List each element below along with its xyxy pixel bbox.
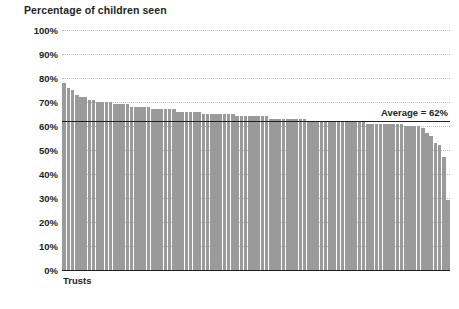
bar xyxy=(185,112,189,270)
bar xyxy=(142,107,146,270)
bar xyxy=(92,100,96,270)
average-label: Average = 62% xyxy=(250,107,448,118)
bar xyxy=(299,119,303,270)
bar xyxy=(109,102,113,270)
y-axis-tick-labels: 100%90%80%70%60%50%40%30%20%10%0% xyxy=(18,30,58,270)
bar xyxy=(383,124,387,270)
bar xyxy=(273,119,277,270)
chart-container: Percentage of children seen 100%90%80%70… xyxy=(0,0,459,309)
bar xyxy=(366,124,370,270)
bar xyxy=(79,97,83,270)
bar xyxy=(210,114,214,270)
y-axis-tick: 10% xyxy=(24,241,58,252)
bar xyxy=(235,116,239,270)
bar xyxy=(202,114,206,270)
bar xyxy=(303,119,307,270)
bar xyxy=(113,104,117,270)
bar xyxy=(193,112,197,270)
bar xyxy=(379,124,383,270)
bar xyxy=(370,124,374,270)
bar xyxy=(130,107,134,270)
bar xyxy=(214,114,218,270)
bar xyxy=(231,114,235,270)
bar xyxy=(180,112,184,270)
bar xyxy=(442,157,446,270)
bar xyxy=(328,121,332,270)
bar xyxy=(117,104,121,270)
y-axis-tick: 50% xyxy=(24,145,58,156)
bar xyxy=(429,136,433,270)
bar xyxy=(417,126,421,270)
y-axis-tick: 80% xyxy=(24,73,58,84)
bar xyxy=(345,121,349,270)
bar xyxy=(105,102,109,270)
y-axis-tick: 0% xyxy=(24,265,58,276)
bar xyxy=(434,143,438,270)
bar xyxy=(159,109,163,270)
bar xyxy=(404,126,408,270)
bar xyxy=(277,119,281,270)
bar xyxy=(362,121,366,270)
bar xyxy=(218,114,222,270)
bar xyxy=(100,102,104,270)
bar xyxy=(438,145,442,270)
average-line xyxy=(62,121,450,122)
y-axis-tick: 30% xyxy=(24,193,58,204)
plot-area xyxy=(62,30,450,270)
bar xyxy=(168,109,172,270)
y-axis-tick: 40% xyxy=(24,169,58,180)
bar xyxy=(282,119,286,270)
y-axis-tick: 20% xyxy=(24,217,58,228)
y-axis-tick: 60% xyxy=(24,121,58,132)
bar xyxy=(446,200,450,270)
bar xyxy=(307,121,311,270)
bar xyxy=(252,116,256,270)
bar xyxy=(337,121,341,270)
bar xyxy=(408,126,412,270)
bar xyxy=(227,114,231,270)
bar xyxy=(67,88,71,270)
bar xyxy=(332,121,336,270)
bar xyxy=(147,107,151,270)
bar xyxy=(400,124,404,270)
y-axis-tick: 100% xyxy=(24,25,58,36)
bar xyxy=(387,124,391,270)
bar xyxy=(248,116,252,270)
bar xyxy=(151,109,155,270)
bar xyxy=(164,109,168,270)
bar xyxy=(349,121,353,270)
bar-series xyxy=(62,30,450,270)
x-axis-line xyxy=(62,270,450,271)
bar xyxy=(412,126,416,270)
bar xyxy=(256,116,260,270)
bar xyxy=(62,83,66,270)
bar xyxy=(391,124,395,270)
bar xyxy=(121,104,125,270)
bar xyxy=(353,121,357,270)
bar xyxy=(265,116,269,270)
bar xyxy=(315,121,319,270)
bar xyxy=(375,124,379,270)
bar xyxy=(197,112,201,270)
x-axis-label: Trusts xyxy=(63,275,92,286)
chart-title: Percentage of children seen xyxy=(24,4,167,16)
bar xyxy=(206,114,210,270)
bar xyxy=(269,119,273,270)
bar xyxy=(176,112,180,270)
bar xyxy=(71,90,75,270)
bar xyxy=(320,121,324,270)
bar xyxy=(324,121,328,270)
bar xyxy=(341,121,345,270)
bar xyxy=(155,109,159,270)
bar xyxy=(126,104,130,270)
bar xyxy=(240,116,244,270)
y-axis-tick: 90% xyxy=(24,49,58,60)
bar xyxy=(425,133,429,270)
bar xyxy=(358,121,362,270)
bar xyxy=(396,124,400,270)
bar xyxy=(421,128,425,270)
bar xyxy=(223,114,227,270)
bar xyxy=(294,119,298,270)
bar xyxy=(88,100,92,270)
bar xyxy=(172,109,176,270)
